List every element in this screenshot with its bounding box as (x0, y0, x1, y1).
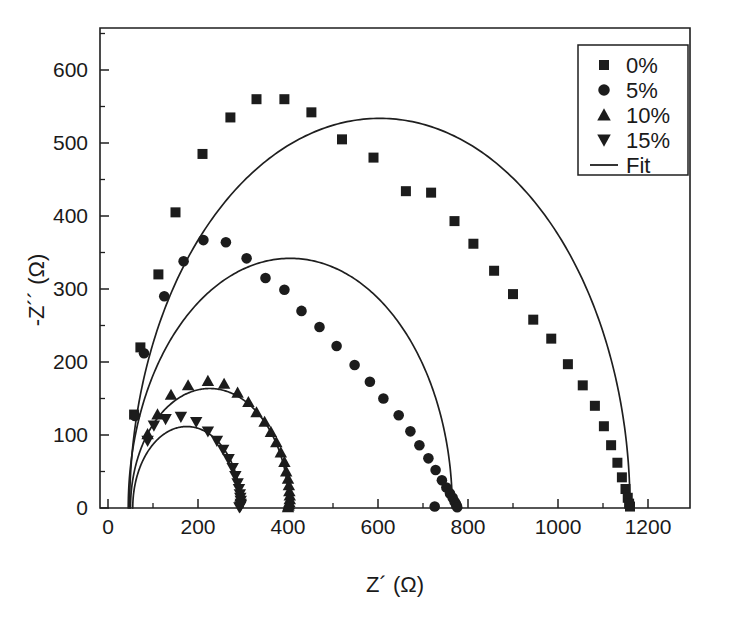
x-tick-label: 200 (180, 515, 215, 538)
data-point (508, 289, 518, 299)
data-point (612, 458, 622, 468)
data-point (241, 253, 252, 264)
x-tick-label: 800 (450, 515, 485, 538)
x-tick-label: 600 (360, 515, 395, 538)
legend: 0%5%10%15%Fit (578, 45, 688, 178)
data-point (546, 334, 556, 344)
data-point (563, 359, 573, 369)
y-tick-label: 0 (76, 496, 88, 519)
y-tick-label: 400 (53, 204, 88, 227)
data-point (331, 341, 342, 352)
data-point (159, 291, 170, 302)
legend-label: 0% (626, 53, 658, 78)
nyquist-plot-figure: 020040060080010001200 010020030040050060… (0, 0, 734, 625)
y-tick-label: 200 (53, 350, 88, 373)
data-point (139, 348, 150, 359)
x-tick-label: 1200 (625, 515, 672, 538)
legend-label: 15% (626, 128, 670, 153)
y-tick-label: 300 (53, 277, 88, 300)
data-point (401, 186, 411, 196)
chart-canvas: 020040060080010001200 010020030040050060… (0, 0, 734, 625)
data-point (450, 216, 460, 226)
data-point (171, 207, 181, 217)
data-point (625, 502, 635, 512)
legend-marker-circle (598, 84, 610, 96)
data-point (306, 107, 316, 117)
legend-label: Fit (626, 153, 650, 178)
y-tick-label: 500 (53, 131, 88, 154)
data-point (617, 472, 627, 482)
data-point (429, 501, 440, 512)
data-point (337, 134, 347, 144)
x-axis-label: Z´ (Ω) (366, 572, 424, 597)
y-tick-label: 100 (53, 423, 88, 446)
data-point (528, 315, 538, 325)
x-tick-label: 0 (102, 515, 114, 538)
data-point (225, 112, 235, 122)
data-point (426, 188, 436, 198)
data-point (378, 393, 389, 404)
data-point (221, 237, 232, 248)
data-point (423, 453, 434, 464)
data-point (153, 269, 163, 279)
legend-label: 10% (626, 103, 670, 128)
data-point (130, 411, 141, 422)
data-point (452, 502, 463, 513)
data-point (606, 440, 616, 450)
y-tick-label: 600 (53, 58, 88, 81)
x-tick-label: 1000 (535, 515, 582, 538)
data-point (252, 94, 262, 104)
data-point (365, 376, 376, 387)
data-point (414, 440, 425, 451)
data-point (198, 149, 208, 159)
data-point (621, 484, 631, 494)
data-point (296, 306, 307, 317)
x-tick-label: 400 (270, 515, 305, 538)
data-point (279, 94, 289, 104)
data-point (405, 426, 416, 437)
data-point (599, 421, 609, 431)
data-point (260, 273, 271, 284)
data-point (393, 410, 404, 421)
data-point (489, 266, 499, 276)
data-point (430, 465, 441, 476)
data-point (590, 401, 600, 411)
data-point (314, 322, 325, 333)
data-point (178, 256, 189, 267)
y-axis-label: -Z´´ (Ω) (24, 254, 49, 327)
legend-marker-square (599, 60, 609, 70)
legend-label: 5% (626, 78, 658, 103)
data-point (279, 284, 290, 295)
data-point (578, 380, 588, 390)
data-point (198, 235, 209, 246)
data-point (468, 239, 478, 249)
data-point (349, 360, 360, 371)
data-point (369, 153, 379, 163)
